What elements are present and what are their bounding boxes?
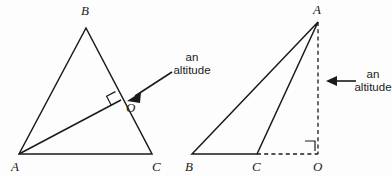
left-altitude-segment xyxy=(19,100,121,154)
right-triangle-outline xyxy=(192,22,318,154)
diagram-svg: B A C O an altitude A B C O xyxy=(0,0,392,176)
left-triangle-outline xyxy=(19,28,152,154)
left-vertex-label-A: A xyxy=(10,159,19,174)
right-vertex-label-C: C xyxy=(252,159,261,174)
right-callout-line1: an xyxy=(367,68,380,80)
left-right-angle-marker xyxy=(107,92,121,106)
right-vertex-label-O: O xyxy=(313,159,323,174)
left-callout-line1: an xyxy=(186,51,199,63)
left-vertex-label-B: B xyxy=(81,3,89,18)
right-vertex-label-B: B xyxy=(185,159,193,174)
left-callout-line2: altitude xyxy=(173,64,210,76)
geometry-figure-canvas: B A C O an altitude A B C O xyxy=(0,0,392,176)
left-vertex-label-O: O xyxy=(126,100,136,115)
left-vertex-label-C: C xyxy=(152,159,161,174)
right-right-angle-marker xyxy=(305,141,315,151)
left-triangle-group: B A C O an altitude xyxy=(10,3,211,174)
right-vertex-label-A: A xyxy=(312,2,321,17)
right-callout-line2: altitude xyxy=(354,81,391,93)
right-triangle-group: A B C O an altitude xyxy=(185,2,392,174)
right-callout-arrow-head xyxy=(326,76,337,86)
